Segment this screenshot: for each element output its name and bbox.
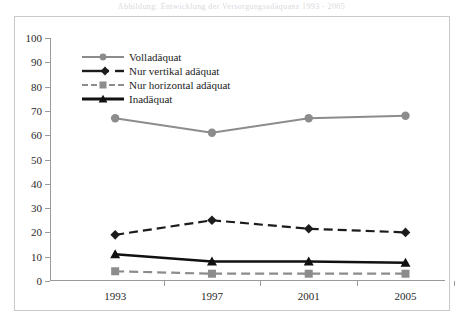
y-axis-tick-label: 40 [31, 178, 42, 190]
series-line [115, 271, 405, 273]
series-2 [111, 267, 409, 277]
x-axis-tick-label: 2005 [395, 290, 417, 302]
plot-area: 0102030405060708090100 1993199720012005 [50, 38, 445, 281]
y-axis-tick [45, 281, 50, 282]
y-axis-tick-label: 60 [31, 129, 42, 141]
x-axis-tick-label: 1997 [201, 290, 223, 302]
series-line [115, 254, 405, 263]
y-axis-tick-label: 90 [31, 56, 42, 68]
data-point-circle-marker [305, 114, 313, 122]
y-axis-tick-label: 70 [31, 105, 42, 117]
x-axis-tick [357, 281, 358, 286]
y-axis-tick-label: 20 [31, 226, 42, 238]
chart-page: Abbildung: Entwicklung der Versorgungsad… [0, 0, 463, 327]
y-axis-tick-label: 80 [31, 81, 42, 93]
data-point-diamond-marker [110, 230, 120, 240]
series-3 [110, 249, 410, 267]
data-point-circle-marker [208, 129, 216, 137]
y-axis-tick-label: 30 [31, 202, 42, 214]
data-point-square-marker [111, 267, 119, 275]
data-point-diamond-marker [401, 228, 411, 238]
x-axis-tick [164, 281, 165, 286]
series-layer [50, 38, 445, 281]
series-0 [111, 112, 410, 137]
y-axis-tick-label: 100 [26, 32, 43, 44]
series-1 [110, 215, 410, 239]
data-point-circle-marker [401, 112, 409, 120]
data-point-diamond-marker [304, 224, 314, 234]
data-point-square-marker [208, 270, 216, 278]
clipped-caption-text: Abbildung: Entwicklung der Versorgungsad… [0, 0, 463, 13]
data-point-diamond-marker [207, 215, 217, 225]
x-axis-tick-label: 2001 [298, 290, 320, 302]
data-point-circle-marker [111, 114, 119, 122]
x-axis-tick [454, 281, 455, 286]
series-line [115, 116, 405, 133]
y-axis-tick-label: 10 [31, 251, 42, 263]
x-axis-tick [260, 281, 261, 286]
y-axis-tick-label: 0 [37, 275, 43, 287]
data-point-square-marker [305, 270, 313, 278]
data-point-square-marker [402, 270, 410, 278]
y-axis-tick-label: 50 [31, 154, 42, 166]
series-line [115, 220, 405, 235]
x-axis-tick-label: 1993 [104, 290, 126, 302]
